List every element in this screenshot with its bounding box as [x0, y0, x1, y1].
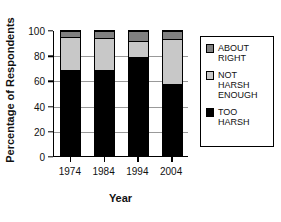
- bar-segment-too-harsh[interactable]: [129, 57, 148, 155]
- x-axis-labels: 1974198419942004: [53, 166, 188, 180]
- stacked-bar[interactable]: [128, 30, 149, 156]
- bar-segment-about-right[interactable]: [163, 31, 182, 39]
- legend-item[interactable]: TOO HARSH: [206, 107, 269, 127]
- x-tick-mark: [137, 157, 138, 162]
- x-axis-ticks: [53, 157, 188, 163]
- chart-legend: ABOUT RIGHTNOT HARSH ENOUGHTOO HARSH: [200, 36, 274, 147]
- y-tick-label: 40: [34, 101, 45, 112]
- bar-segment-not-harsh[interactable]: [61, 37, 80, 70]
- bar-segment-about-right[interactable]: [129, 31, 148, 41]
- legend-item[interactable]: ABOUT RIGHT: [206, 43, 269, 63]
- y-tick-label: 100: [28, 26, 45, 37]
- x-axis-title: Year: [53, 192, 188, 204]
- legend-label: TOO HARSH: [218, 107, 250, 127]
- x-tick-mark: [104, 157, 105, 162]
- x-tick-mark: [171, 157, 172, 162]
- bar-segment-too-harsh[interactable]: [61, 70, 80, 155]
- legend-label: ABOUT RIGHT: [218, 43, 249, 63]
- legend-swatch-too-harsh: [206, 108, 214, 117]
- y-tick-label: 60: [34, 76, 45, 87]
- x-tick-label: 2004: [160, 166, 182, 177]
- bar-segment-not-harsh[interactable]: [129, 41, 148, 58]
- legend-item[interactable]: NOT HARSH ENOUGH: [206, 70, 269, 100]
- legend-swatch-about-right: [206, 44, 214, 53]
- stacked-bar[interactable]: [94, 30, 115, 156]
- bar-segment-too-harsh[interactable]: [163, 84, 182, 155]
- x-tick-mark: [70, 157, 71, 162]
- x-tick-label: 1974: [59, 166, 81, 177]
- x-tick-label: 1984: [93, 166, 115, 177]
- chart-figure: Percentage of Respondents 020406080100 1…: [0, 0, 281, 222]
- bar-segment-too-harsh[interactable]: [95, 70, 114, 155]
- plot-area: [53, 31, 188, 157]
- bar-segment-about-right[interactable]: [95, 31, 114, 38]
- y-tick-label: 0: [39, 152, 45, 163]
- x-tick-label: 1994: [126, 166, 148, 177]
- bar-segment-not-harsh[interactable]: [163, 39, 182, 84]
- y-tick-label: 80: [34, 51, 45, 62]
- y-axis-ticks: 020406080100: [0, 31, 53, 157]
- legend-swatch-not-harsh: [206, 71, 214, 80]
- legend-label: NOT HARSH ENOUGH: [218, 70, 258, 100]
- bar-segment-not-harsh[interactable]: [95, 38, 114, 70]
- bar-group: [54, 31, 188, 156]
- stacked-bar[interactable]: [60, 30, 81, 156]
- stacked-bar[interactable]: [162, 30, 183, 156]
- y-tick-label: 20: [34, 126, 45, 137]
